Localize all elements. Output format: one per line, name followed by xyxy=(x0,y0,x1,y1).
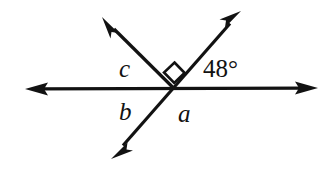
perpendicular-ray-arrowhead xyxy=(102,17,119,39)
angle-label-b: b xyxy=(119,99,132,124)
geometry-diagram: c b a 48° xyxy=(0,0,332,183)
angle-label-c: c xyxy=(119,56,130,81)
transversal-line-shaft xyxy=(123,24,230,146)
transversal-line xyxy=(111,11,241,159)
transversal-lower-arrowhead xyxy=(111,143,133,160)
angle-measure-label: 48° xyxy=(203,56,238,81)
angle-label-a: a xyxy=(178,101,191,126)
perpendicular-ray xyxy=(102,17,174,89)
geometry-canvas xyxy=(0,0,332,183)
